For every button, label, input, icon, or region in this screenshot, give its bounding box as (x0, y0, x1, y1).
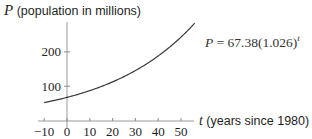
x-tick-label: 0 (64, 124, 71, 139)
equation-label: P = 67.38(1.026)t (204, 33, 300, 50)
y-tick-label: 200 (42, 44, 62, 59)
x-tick-label: 40 (152, 124, 165, 139)
x-axis-title: t (years since 1980) (199, 113, 309, 128)
y-axis-title: P (population in millions) (3, 2, 141, 18)
x-tick-label: 10 (83, 124, 96, 139)
y-tick-label: 100 (42, 79, 62, 94)
x-tick-label: 50 (175, 124, 188, 139)
y-axis-ticks: 100200 (42, 44, 71, 93)
x-tick-label: −10 (34, 124, 54, 139)
x-tick-label: 30 (129, 124, 142, 139)
population-chart: P (population in millions) −100102030405… (0, 0, 312, 139)
x-tick-label: 20 (106, 124, 119, 139)
chart-svg: P (population in millions) −100102030405… (0, 0, 312, 139)
